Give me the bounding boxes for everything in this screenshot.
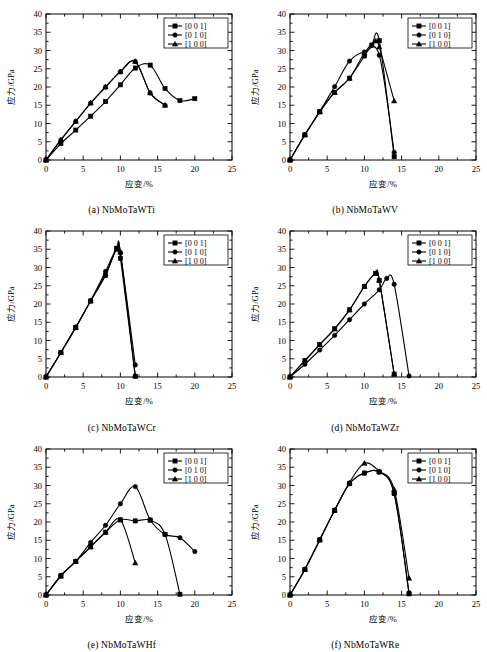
svg-text:[0 0 1]: [0 0 1] (185, 239, 207, 248)
svg-text:25: 25 (34, 64, 43, 74)
svg-text:[1 0 0]: [1 0 0] (185, 475, 207, 484)
chart-panel-e: 05101520250510152025303540应变/%应力/GPa[0 0… (0, 435, 244, 652)
svg-text:应力/GPa: 应力/GPa (6, 287, 16, 322)
svg-text:25: 25 (277, 498, 286, 508)
svg-text:20: 20 (34, 299, 43, 309)
chart-svg-e: 05101520250510152025303540应变/%应力/GPa[0 0… (0, 435, 243, 652)
panel-caption-c: (c) NbMoTaWCr (0, 423, 244, 433)
svg-text:应变/%: 应变/% (369, 396, 396, 406)
svg-text:15: 15 (277, 535, 286, 545)
chart-panel-f: 05101520250510152025303540应变/%应力/GPa[0 0… (244, 435, 487, 652)
chart-panel-d: 05101520250510152025303540应变/%应力/GPa[0 0… (244, 217, 487, 434)
svg-text:15: 15 (153, 599, 162, 609)
svg-text:35: 35 (277, 27, 286, 37)
chart-panel-a: 05101520250510152025303540应变/%应力/GPa[0 0… (0, 0, 244, 217)
svg-text:[0 1 0]: [0 1 0] (429, 248, 451, 257)
svg-text:15: 15 (277, 318, 286, 328)
svg-text:20: 20 (34, 517, 43, 527)
svg-text:应力/GPa: 应力/GPa (250, 287, 260, 322)
svg-text:[0 1 0]: [0 1 0] (185, 466, 207, 475)
svg-text:40: 40 (277, 226, 286, 236)
svg-text:35: 35 (34, 245, 43, 255)
svg-text:40: 40 (277, 9, 286, 19)
svg-text:[1 0 0]: [1 0 0] (429, 257, 451, 266)
svg-text:30: 30 (277, 480, 286, 490)
svg-text:[0 0 1]: [0 0 1] (185, 457, 207, 466)
svg-text:30: 30 (34, 46, 43, 56)
chart-panel-c: 05101520250510152025303540应变/%应力/GPa[0 0… (0, 217, 244, 434)
svg-text:5: 5 (38, 571, 42, 581)
svg-text:[0 0 1]: [0 0 1] (185, 22, 207, 31)
svg-text:应力/GPa: 应力/GPa (250, 504, 260, 539)
svg-text:10: 10 (360, 381, 369, 391)
svg-text:15: 15 (397, 164, 406, 174)
svg-text:0: 0 (38, 155, 42, 165)
svg-text:20: 20 (277, 82, 286, 92)
panel-caption-a: (a) NbMoTaWTi (0, 205, 244, 215)
svg-text:30: 30 (34, 263, 43, 273)
svg-text:20: 20 (434, 381, 443, 391)
svg-text:[0 1 0]: [0 1 0] (429, 466, 451, 475)
svg-text:10: 10 (116, 599, 125, 609)
svg-text:25: 25 (277, 64, 286, 74)
svg-text:35: 35 (277, 462, 286, 472)
svg-text:[0 1 0]: [0 1 0] (429, 31, 451, 40)
svg-text:35: 35 (34, 27, 43, 37)
svg-text:应变/%: 应变/% (125, 396, 152, 406)
svg-text:0: 0 (281, 590, 285, 600)
svg-text:10: 10 (277, 336, 286, 346)
svg-text:应力/GPa: 应力/GPa (6, 69, 16, 104)
svg-text:35: 35 (277, 245, 286, 255)
chart-panel-b: 05101520250510152025303540应变/%应力/GPa[0 0… (244, 0, 487, 217)
svg-text:应变/%: 应变/% (369, 614, 396, 624)
svg-text:25: 25 (471, 599, 480, 609)
svg-text:[1 0 0]: [1 0 0] (429, 40, 451, 49)
chart-svg-f: 05101520250510152025303540应变/%应力/GPa[0 0… (244, 435, 487, 652)
svg-text:5: 5 (325, 599, 329, 609)
svg-text:5: 5 (81, 164, 85, 174)
chart-svg-c: 05101520250510152025303540应变/%应力/GPa[0 0… (0, 217, 243, 434)
svg-text:30: 30 (277, 46, 286, 56)
svg-text:20: 20 (277, 299, 286, 309)
svg-text:5: 5 (325, 381, 329, 391)
panel-caption-b: (b) NbMoTaWV (244, 205, 487, 215)
svg-text:15: 15 (277, 100, 286, 110)
svg-text:5: 5 (81, 599, 85, 609)
svg-text:10: 10 (34, 119, 43, 129)
svg-text:15: 15 (153, 164, 162, 174)
chart-svg-b: 05101520250510152025303540应变/%应力/GPa[0 0… (244, 0, 487, 217)
svg-text:应变/%: 应变/% (125, 179, 152, 189)
svg-text:20: 20 (191, 381, 200, 391)
svg-text:5: 5 (81, 381, 85, 391)
svg-text:0: 0 (38, 372, 42, 382)
svg-text:0: 0 (44, 381, 48, 391)
svg-text:5: 5 (281, 137, 285, 147)
svg-text:15: 15 (34, 100, 43, 110)
svg-text:15: 15 (397, 599, 406, 609)
svg-text:25: 25 (34, 498, 43, 508)
svg-text:10: 10 (34, 553, 43, 563)
svg-text:[0 0 1]: [0 0 1] (429, 239, 451, 248)
svg-text:15: 15 (397, 381, 406, 391)
figure-panel-grid: 05101520250510152025303540应变/%应力/GPa[0 0… (0, 0, 487, 652)
svg-text:25: 25 (277, 281, 286, 291)
svg-text:[1 0 0]: [1 0 0] (185, 40, 207, 49)
svg-text:30: 30 (34, 480, 43, 490)
svg-text:[0 1 0]: [0 1 0] (185, 31, 207, 40)
svg-text:0: 0 (281, 372, 285, 382)
svg-text:0: 0 (287, 164, 291, 174)
svg-text:40: 40 (277, 444, 286, 454)
svg-text:0: 0 (44, 599, 48, 609)
svg-text:20: 20 (191, 599, 200, 609)
svg-text:15: 15 (34, 535, 43, 545)
chart-svg-a: 05101520250510152025303540应变/%应力/GPa[0 0… (0, 0, 243, 217)
svg-text:10: 10 (277, 119, 286, 129)
svg-text:25: 25 (228, 381, 237, 391)
svg-text:[1 0 0]: [1 0 0] (185, 257, 207, 266)
svg-text:[1 0 0]: [1 0 0] (429, 475, 451, 484)
svg-text:5: 5 (281, 354, 285, 364)
svg-text:应力/GPa: 应力/GPa (6, 504, 16, 539)
panel-caption-f: (f) NbMoTaWRe (244, 640, 487, 650)
svg-text:5: 5 (325, 164, 329, 174)
svg-text:25: 25 (228, 599, 237, 609)
